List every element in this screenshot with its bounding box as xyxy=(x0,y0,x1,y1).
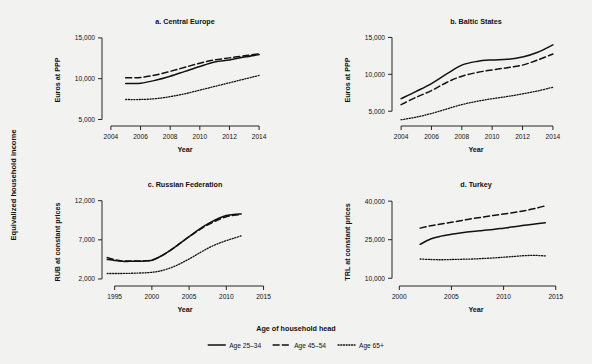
y-tick-label: 5,000 xyxy=(78,116,95,123)
series-line-solid xyxy=(107,214,241,261)
series-line-dotted xyxy=(420,255,545,259)
legend-label: Age 65+ xyxy=(359,342,384,350)
figure-container: a. Central Europe5,00010,00015,000200420… xyxy=(0,0,592,364)
x-tick-label: 2004 xyxy=(104,133,119,140)
panel-2: b. Baltic States5,00010,00015,0002004200… xyxy=(343,17,561,154)
x-tick-label: 2000 xyxy=(392,293,407,300)
x-tick-label: 2008 xyxy=(163,133,178,140)
x-axis-label: Year xyxy=(177,305,192,314)
x-tick-label: 2000 xyxy=(145,293,160,300)
x-axis-label: Year xyxy=(468,145,483,154)
y-tick-label: 15,000 xyxy=(365,34,386,41)
y-tick-label: 10,000 xyxy=(75,75,96,82)
y-tick-label: 2,000 xyxy=(78,275,95,282)
y-tick-label: 7,000 xyxy=(78,236,95,243)
y-tick-label: 25,000 xyxy=(365,236,386,243)
y-tick-label: 12,000 xyxy=(75,197,96,204)
multi-panel-line-chart: a. Central Europe5,00010,00015,000200420… xyxy=(0,0,592,364)
series-line-dotted xyxy=(401,87,553,119)
legend-label: Age 45–54 xyxy=(294,342,326,350)
y-tick-label: 15,000 xyxy=(75,34,96,41)
series-line-dotted xyxy=(107,236,241,274)
legend-title: Age of household head xyxy=(256,324,335,333)
x-tick-label: 2006 xyxy=(133,133,148,140)
panel-title: a. Central Europe xyxy=(155,17,215,26)
x-tick-label: 2012 xyxy=(515,133,530,140)
legend-label: Age 25–34 xyxy=(229,342,261,350)
y-axis-label: RUB at constant prices xyxy=(53,202,62,281)
x-tick-label: 2010 xyxy=(192,133,207,140)
x-axis-label: Year xyxy=(468,305,483,314)
x-tick-label: 2006 xyxy=(424,133,439,140)
x-tick-label: 2014 xyxy=(252,133,267,140)
panel-title: b. Baltic States xyxy=(450,17,502,26)
y-tick-label: 10,000 xyxy=(365,71,386,78)
series-line-dashed xyxy=(107,214,241,261)
y-tick-label: 40,000 xyxy=(365,198,386,205)
panel-3: c. Russian Federation2,0007,00012,000199… xyxy=(53,180,271,314)
series-line-dotted xyxy=(126,75,259,99)
x-tick-label: 2010 xyxy=(496,293,511,300)
x-tick-label: 2014 xyxy=(546,133,561,140)
legend: Age of household headAge 25–34Age 45–54A… xyxy=(208,324,384,350)
x-tick-label: 2005 xyxy=(182,293,197,300)
series-line-solid xyxy=(420,223,545,245)
y-tick-label: 5,000 xyxy=(368,108,385,115)
panel-1: a. Central Europe5,00010,00015,000200420… xyxy=(53,17,267,154)
y-axis-label: Euros at PPP xyxy=(53,57,62,102)
panel-title: d. Turkey xyxy=(460,180,491,189)
x-axis-label: Year xyxy=(177,145,192,154)
x-tick-label: 2010 xyxy=(485,133,500,140)
series-line-solid xyxy=(126,55,259,84)
y-tick-label: 10,000 xyxy=(365,275,386,282)
x-tick-label: 1995 xyxy=(107,293,122,300)
outer-y-axis-label: Equivalized household income xyxy=(9,130,18,241)
x-tick-label: 2008 xyxy=(454,133,469,140)
x-tick-label: 2005 xyxy=(444,293,459,300)
x-tick-label: 2015 xyxy=(548,293,563,300)
y-axis-label: TRL at constant prices xyxy=(343,203,352,280)
x-tick-label: 2012 xyxy=(222,133,237,140)
x-tick-label: 2010 xyxy=(219,293,234,300)
x-tick-label: 2015 xyxy=(256,293,271,300)
panel-4: d. Turkey10,00025,00040,0002000200520102… xyxy=(343,180,563,314)
panel-title: c. Russian Federation xyxy=(148,180,223,189)
y-axis-label: Euros at PPP xyxy=(343,57,352,102)
x-tick-label: 2004 xyxy=(394,133,409,140)
